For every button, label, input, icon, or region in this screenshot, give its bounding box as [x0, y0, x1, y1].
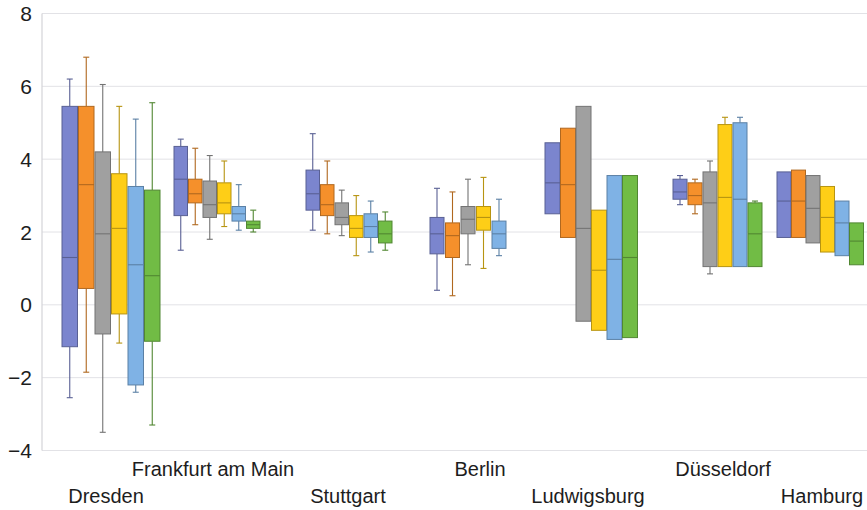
box-rect: [492, 221, 506, 248]
box-rect: [306, 170, 320, 210]
box-rect: [174, 146, 188, 215]
x-category-label: Berlin: [454, 458, 505, 480]
box-plot-item: [145, 103, 161, 425]
box-rect: [145, 190, 161, 341]
box-rect: [623, 176, 638, 338]
box-plot-item: [321, 161, 335, 234]
box-plot-item: [688, 179, 702, 214]
box-rect: [364, 214, 378, 238]
box-plot-item: [592, 210, 607, 330]
box-plot-item: [806, 176, 820, 243]
box-plot-item: [777, 172, 791, 238]
box-plot-item: [718, 117, 732, 266]
box-group: [430, 177, 506, 295]
plot-canvas: 86420−2−4 DresdenFrankfurt am MainStuttg…: [0, 0, 867, 510]
box-plot-item: [430, 188, 444, 290]
box-rect: [576, 106, 591, 321]
box-plot-item: [364, 201, 378, 252]
box-group: [306, 134, 392, 256]
box-plot-item: [189, 148, 203, 224]
box-plot-item: [62, 79, 78, 398]
x-category-label: Düsseldorf: [675, 458, 771, 480]
box-rect: [703, 172, 717, 267]
box-rect: [189, 179, 203, 203]
box-rect: [446, 223, 460, 258]
box-plot-item: [835, 201, 849, 256]
box-plot-item: [128, 119, 144, 392]
box-plot-item: [218, 161, 232, 227]
box-plot-item: [748, 201, 762, 267]
box-rect: [218, 183, 232, 214]
box-plot-item: [733, 117, 747, 266]
y-tick-label: 4: [20, 148, 32, 171]
box-rect: [461, 207, 475, 234]
box-rect: [321, 185, 335, 216]
box-plot-item: [335, 190, 349, 236]
box-plot-item: [673, 176, 687, 205]
box-plot-item: [850, 223, 864, 265]
y-axis-tick-labels: 86420−2−4: [8, 2, 32, 462]
box-plot-item: [446, 192, 460, 296]
x-category-label: Dresden: [68, 485, 144, 507]
box-plot-item: [203, 156, 217, 240]
x-category-label: Hamburg: [781, 485, 863, 507]
box-plot-item: [350, 196, 364, 256]
x-category-label: Frankfurt am Main: [132, 458, 294, 480]
box-plot-item: [545, 143, 560, 214]
box-plot-item: [112, 106, 128, 343]
box-plot-item: [232, 185, 246, 231]
box-rect: [821, 186, 835, 252]
y-tick-label: 0: [20, 293, 32, 316]
box-rect: [79, 106, 95, 288]
box-plot-item: [379, 212, 393, 250]
box-rect: [62, 106, 78, 346]
box-rect: [545, 143, 560, 214]
box-rect: [607, 176, 622, 340]
box-plot-item: [174, 139, 188, 250]
y-tick-label: −4: [8, 439, 32, 462]
y-tick-label: 2: [20, 221, 32, 244]
box-rect: [203, 181, 217, 217]
box-rect: [561, 128, 576, 237]
box-group: [62, 57, 160, 432]
box-rect: [673, 179, 687, 199]
box-plot-item: [461, 179, 475, 265]
box-plot-item: [576, 106, 591, 321]
box-rect: [835, 201, 849, 256]
y-tick-label: −2: [8, 366, 32, 389]
y-tick-label: 8: [20, 2, 32, 25]
box-plot-item: [79, 57, 95, 372]
box-rect: [748, 203, 762, 267]
box-rect: [335, 203, 349, 225]
box-plot-item: [792, 170, 806, 237]
box-plot-item: [247, 210, 261, 232]
box-plot-series: [62, 57, 864, 432]
x-category-label: Ludwigsburg: [531, 485, 644, 507]
box-rect: [733, 123, 747, 267]
box-plot-item: [607, 176, 622, 340]
box-group: [777, 170, 864, 265]
box-rect: [379, 221, 393, 243]
box-plot-item: [703, 161, 717, 274]
box-plot-item: [821, 186, 835, 252]
box-rect: [688, 183, 702, 205]
box-rect: [95, 152, 111, 334]
box-plot-item: [477, 177, 491, 268]
box-rect: [718, 125, 732, 267]
box-plot-item: [623, 176, 638, 338]
box-plot-item: [95, 85, 111, 433]
box-rect: [112, 174, 128, 314]
box-rect: [350, 216, 364, 238]
box-rect: [128, 186, 144, 384]
box-group: [174, 139, 260, 250]
box-rect: [477, 207, 491, 231]
box-plot-item: [492, 199, 506, 255]
box-rect: [430, 217, 444, 253]
x-category-label: Stuttgart: [310, 485, 386, 507]
box-plot-item: [561, 128, 576, 237]
box-group: [673, 117, 762, 274]
box-rect: [792, 170, 806, 237]
box-rect: [806, 176, 820, 243]
box-plot-item: [306, 134, 320, 231]
box-rect: [850, 223, 864, 265]
